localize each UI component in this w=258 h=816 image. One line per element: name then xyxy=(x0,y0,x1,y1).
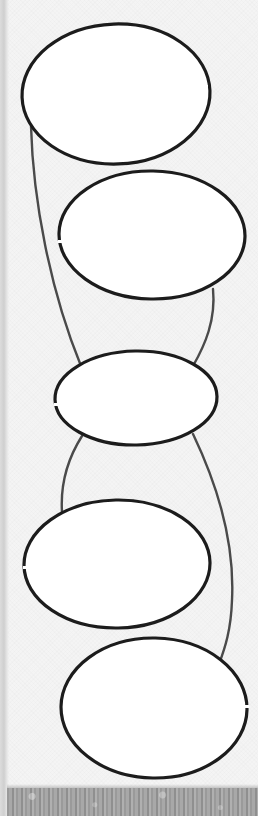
diagram-canvas xyxy=(0,0,258,816)
pen-gap xyxy=(23,566,27,569)
oval-node-1[interactable] xyxy=(20,21,213,167)
pen-gap xyxy=(58,240,62,243)
oval-node-3[interactable] xyxy=(54,350,218,447)
oval-node-5[interactable] xyxy=(60,636,248,779)
pen-gap xyxy=(203,85,208,88)
pen-gap xyxy=(54,403,58,406)
graphic-organizer xyxy=(0,0,258,816)
pen-gap xyxy=(245,705,249,708)
oval-node-2[interactable] xyxy=(58,169,246,300)
connector-oval2-oval3 xyxy=(193,289,213,366)
connector-oval3-oval4 xyxy=(62,436,82,512)
grunge-texture-strip xyxy=(7,788,258,816)
oval-node-4[interactable] xyxy=(23,498,211,629)
